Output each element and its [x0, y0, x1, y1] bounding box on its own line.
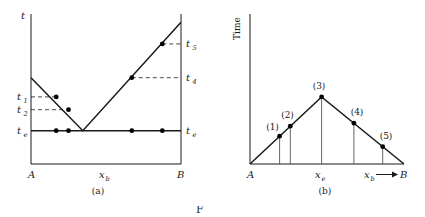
- chart-panel-b: Time (1) (2) (3) (4) (5) A x: [212, 0, 425, 217]
- panel-b-point-label-4: (4): [351, 107, 364, 117]
- panel-b-marker-2: [288, 124, 293, 129]
- panel-a-baseline-marker-4: [129, 128, 134, 133]
- svg-text:t: t: [186, 125, 191, 136]
- svg-text:4: 4: [192, 78, 197, 86]
- panel-b-marker-1: [277, 134, 282, 139]
- svg-text:1: 1: [24, 97, 28, 105]
- chart-panel-a: t t 1 t: [0, 0, 212, 217]
- svg-text:x: x: [315, 169, 321, 180]
- panel-a-ytick-t5: t 5: [186, 38, 197, 52]
- panel-b-caption: (b): [319, 186, 332, 196]
- panel-a-v-curve: [31, 22, 181, 130]
- panel-b-point-label-5: (5): [380, 131, 393, 141]
- panel-b-svg: Time (1) (2) (3) (4) (5) A x: [212, 0, 425, 217]
- panel-a-ytick-te-left: t e: [17, 125, 28, 139]
- panel-a-xtick-A: A: [27, 169, 35, 180]
- svg-text:e: e: [322, 175, 326, 183]
- svg-text:t: t: [17, 125, 22, 136]
- panel-a-curve-marker-2: [66, 107, 71, 112]
- panel-b-point-label-2: (2): [281, 110, 294, 120]
- svg-text:e: e: [193, 131, 197, 139]
- panel-b-xtick-A: A: [246, 169, 254, 180]
- svg-text:x: x: [364, 169, 370, 180]
- svg-text:t: t: [186, 72, 191, 83]
- panel-b-point-label-1: (1): [266, 122, 279, 132]
- svg-text:2: 2: [23, 110, 28, 118]
- panel-b-marker-3: [319, 95, 324, 100]
- svg-text:b: b: [106, 175, 110, 183]
- panel-a-baseline-marker-2: [66, 128, 71, 133]
- panel-a-ytick-t4: t 4: [186, 72, 197, 86]
- panel-b-y-axis-label: Time: [232, 17, 242, 40]
- svg-text:5: 5: [193, 44, 197, 52]
- svg-text:e: e: [24, 131, 28, 139]
- panel-b-xtick-xb: x b: [364, 169, 398, 183]
- panel-b-xtick-B: B: [399, 169, 407, 180]
- panel-a-xtick-xb: x b: [99, 169, 110, 183]
- panel-a-caption: (a): [92, 186, 104, 196]
- svg-text:x: x: [99, 169, 105, 180]
- panel-b-marker-5: [380, 144, 385, 149]
- xb-to-b-arrow-head: [392, 172, 398, 178]
- panel-a-curve-marker-4: [129, 75, 134, 80]
- figure-container: t t 1 t: [0, 0, 425, 217]
- panel-a-baseline-marker-5: [160, 128, 165, 133]
- panel-a-baseline-marker-1: [54, 128, 59, 133]
- panel-a-curve-marker-5: [160, 42, 165, 47]
- panel-a-ytick-t2: t 2: [17, 104, 28, 118]
- panel-b-point-label-3: (3): [313, 81, 326, 91]
- panel-a-y-axis-label: t: [21, 10, 26, 21]
- svg-text:t: t: [17, 91, 22, 102]
- panel-a-xtick-B: B: [176, 169, 184, 180]
- panel-a-curve-marker-1: [54, 95, 59, 100]
- figure-bottom-caption-text: F: [196, 206, 204, 216]
- panel-a-svg: t t 1 t: [0, 0, 212, 217]
- panel-a-ytick-t1: t 1: [17, 91, 28, 105]
- svg-text:b: b: [371, 175, 375, 183]
- panel-a-ytick-te-right: t e: [186, 125, 197, 139]
- figure-bottom-caption: F: [196, 206, 204, 217]
- svg-text:t: t: [186, 38, 191, 49]
- panel-b-xtick-xe: x e: [315, 169, 326, 183]
- panel-b-marker-4: [352, 121, 357, 126]
- svg-text:t: t: [17, 104, 22, 115]
